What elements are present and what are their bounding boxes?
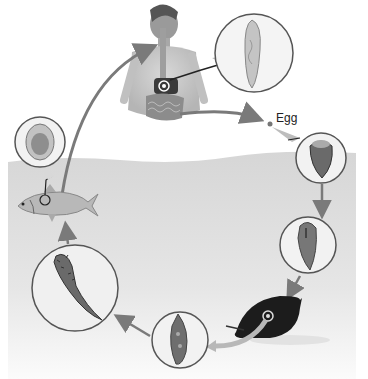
arrow-human-to-egg <box>180 112 256 118</box>
miracidium-stage <box>280 217 336 273</box>
egg-label: Egg <box>276 111 297 125</box>
cercaria-stage <box>32 245 118 331</box>
egg-pointer-wedge <box>272 127 300 142</box>
egg-capsule-stage <box>296 133 346 183</box>
life-cycle-diagram: Egg <box>0 0 368 379</box>
metacercaria-stage <box>15 117 65 167</box>
adult-fluke-stage <box>215 14 293 92</box>
diagram-canvas: Egg <box>0 0 368 379</box>
redia-stage <box>152 312 208 368</box>
human-torso-icon <box>124 4 204 120</box>
egg-dot-icon <box>268 122 273 127</box>
